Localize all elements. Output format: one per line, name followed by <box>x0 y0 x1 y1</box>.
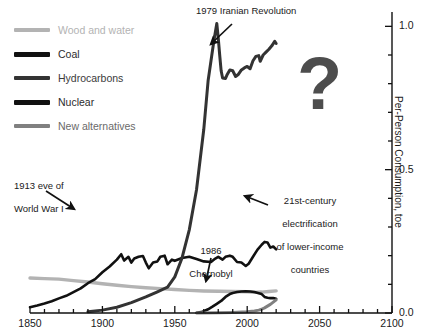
legend-label-nuclear: Nuclear <box>58 96 94 108</box>
legend-swatch-hydrocarbons <box>14 76 50 80</box>
annotation-electrification: 21st-century electrification of lower-in… <box>258 183 362 287</box>
annotation-ww1-line2: World War I <box>14 203 64 215</box>
question-mark-glyph: ? <box>297 47 342 121</box>
y-tick-label: 0.0 <box>399 306 414 318</box>
legend-label-hydrocarbons: Hydrocarbons <box>58 72 123 84</box>
legend-label-new-alternatives: New alternatives <box>58 120 136 132</box>
legend-label-wood-and-water: Wood and water <box>58 24 134 36</box>
chart-legend: Wood and water Coal Hydrocarbons Nuclear… <box>14 18 184 138</box>
x-tick-label: 2000 <box>232 317 262 329</box>
x-tick-label: 1900 <box>87 317 117 329</box>
x-tick-label: 1950 <box>160 317 190 329</box>
series-line-new-alternatives <box>197 300 277 313</box>
annotation-elec-line1: 21st-century <box>258 195 362 207</box>
annotation-elec-line2: electrification <box>258 218 362 230</box>
legend-item-coal: Coal <box>14 42 184 66</box>
y-tick-label: 0.5 <box>399 163 414 175</box>
legend-item-wood-and-water: Wood and water <box>14 18 184 42</box>
annotation-chernobyl-line2: Chernobyl <box>178 268 244 280</box>
legend-label-coal: Coal <box>58 48 80 60</box>
legend-swatch-nuclear <box>14 100 50 105</box>
x-tick-label: 2100 <box>377 317 407 329</box>
legend-swatch-coal <box>14 52 50 57</box>
legend-item-nuclear: Nuclear <box>14 90 184 114</box>
legend-swatch-wood-and-water <box>14 28 50 32</box>
annotation-elec-line3: of lower-income <box>258 241 362 253</box>
annotation-iranian-revolution: 1979 Iranian Revolution <box>196 5 296 17</box>
annotation-world-war-one: 1913 eve of World War I <box>14 168 64 226</box>
legend-swatch-new-alternatives <box>14 124 50 128</box>
annotation-chernobyl-line1: 1986 <box>178 245 244 257</box>
annotation-elec-line4: countries <box>258 264 362 276</box>
legend-item-new-alternatives: New alternatives <box>14 114 184 138</box>
x-tick-label: 1850 <box>15 317 45 329</box>
legend-item-hydrocarbons: Hydrocarbons <box>14 66 184 90</box>
x-tick-label: 2050 <box>305 317 335 329</box>
annotation-chernobyl: 1986 Chernobyl <box>178 233 244 291</box>
y-tick-label: 1.0 <box>399 19 414 31</box>
annotation-ww1-line1: 1913 eve of <box>14 180 64 192</box>
